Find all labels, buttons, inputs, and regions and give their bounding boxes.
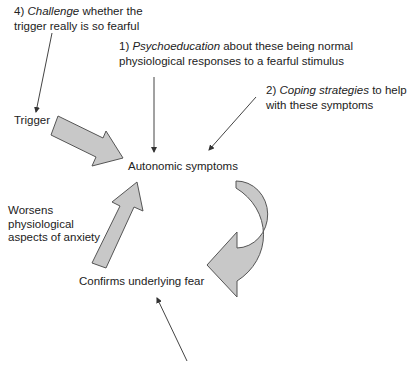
trigger-block-arrow — [51, 116, 123, 166]
pointer-line-3 — [157, 298, 187, 361]
pointer-line-4 — [36, 33, 52, 112]
intervention-4-label: 4) Challenge whether the trigger really … — [14, 4, 143, 34]
node-trigger: Trigger — [14, 113, 50, 128]
node-autonomic-symptoms: Autonomic symptoms — [128, 159, 238, 174]
node-confirms-fear: Confirms underlying fear — [79, 274, 204, 289]
intervention-1-label: 1) Psychoeducation about these being nor… — [119, 39, 353, 69]
node-worsens: Worsens physiological aspects of anxiety — [8, 204, 100, 245]
intervention-2-label: 2) Coping strategies to help with these … — [266, 83, 407, 113]
pointer-line-2 — [209, 97, 256, 150]
cycle-curved-arrow — [207, 181, 268, 297]
